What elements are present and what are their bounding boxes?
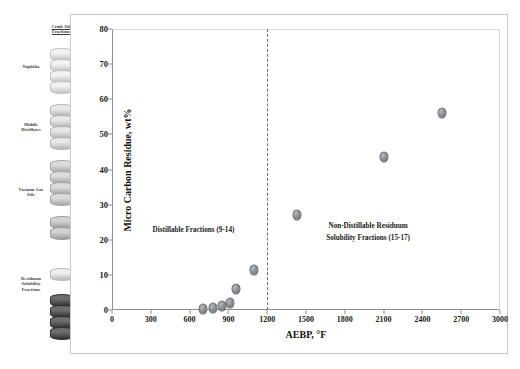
x-axis-tick-mark [306,310,307,314]
x-axis-tick-mark [150,310,151,314]
distillable-label: Distillable Fractions (9-14) [153,226,235,236]
x-axis-tick-label: 900 [222,315,234,324]
data-point [226,297,235,308]
x-axis-tick-label: 2400 [414,315,430,324]
y-axis-tick-label: 40 [100,165,109,175]
x-axis-tick-mark [500,310,501,314]
x-axis-tick-label: 3000 [492,315,508,324]
data-point [198,303,207,314]
x-axis-tick-label: 600 [184,315,196,324]
data-point [379,152,388,163]
plot-frame [112,29,500,310]
y-axis-tick-mark [108,29,112,30]
x-axis-tick-mark [267,310,268,314]
y-axis-tick-label: 10 [100,270,109,280]
y-axis-tick-mark [108,134,112,135]
data-point [250,264,259,275]
y-axis-tick-label: 70 [100,59,109,69]
y-axis-tick-mark [108,274,112,275]
y-axis-tick-mark [108,204,112,205]
fraction-label-naphtha: Naphtha [16,64,46,69]
y-axis-tick-label: 50 [100,129,109,139]
x-axis-tick-label: 2700 [453,315,469,324]
scatter-plot: Micro Carbon Residue, wt% AEBP, °F 01020… [112,29,500,310]
y-axis-tick-mark [108,64,112,65]
x-axis-title: AEBP, °F [286,329,327,340]
x-axis-tick-mark [461,310,462,314]
non-distillable-label-line1: Non-Distillable Residuum [328,223,407,233]
x-axis-tick-mark [383,310,384,314]
y-axis-tick-label: 60 [100,94,109,104]
x-axis-tick-mark [112,310,113,314]
x-axis-tick-label: 1200 [259,315,275,324]
fraction-label-middle-distillates: Middle Distillates [16,122,46,133]
y-axis-tick-label: 30 [100,200,109,210]
y-axis-tick-mark [108,169,112,170]
x-axis-tick-label: 1500 [298,315,314,324]
x-axis-tick-label: 2100 [376,315,392,324]
fraction-label-residuum-solubility: Residuum Solubility Fractions [16,276,46,292]
y-axis-tick-label: 80 [100,24,109,34]
data-point [208,303,217,314]
y-axis-title: Micro Carbon Residue, wt% [122,108,133,231]
x-axis-tick-mark [228,310,229,314]
figure-root: Crude Oil Fractions Naphtha Middle Disti… [0,0,520,369]
x-axis-tick-mark [344,310,345,314]
crude-oil-fraction-diagram: Crude Oil Fractions Naphtha Middle Disti… [16,24,72,346]
y-axis-tick-mark [108,99,112,100]
fraction-label-vacuum-gas-oils: Vacuum Gas Oils [16,187,46,198]
data-point [437,108,446,119]
x-axis-tick-label: 0 [110,315,114,324]
data-point [232,283,241,294]
y-axis-tick-mark [108,239,112,240]
x-axis-tick-label: 300 [145,315,157,324]
distillation-cutoff-line [267,29,268,310]
x-axis-tick-label: 1800 [337,315,353,324]
stack-title-line2: Fractions [52,29,70,34]
y-axis-tick-label: 20 [100,235,109,245]
x-axis-tick-mark [422,310,423,314]
non-distillable-label-line2: Solubility Fractions (15-17) [326,234,410,244]
x-axis-tick-mark [189,310,190,314]
data-point [292,210,301,221]
